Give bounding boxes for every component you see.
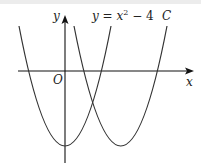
curve1-equation-label: y = x2 − 4	[91, 8, 154, 23]
eq-equals: =	[99, 9, 117, 23]
origin-label: O	[53, 73, 63, 87]
x-axis-label: x	[186, 75, 193, 89]
eq-rest: − 4	[128, 9, 154, 23]
curve-c-label: C	[162, 9, 171, 23]
y-axis-label: y	[52, 9, 60, 23]
svg-text:y = x2 − 4: y = x2 − 4	[91, 8, 154, 23]
parabola-c	[74, 26, 167, 146]
parabola-diagram: y x O C y = x2 − 4	[0, 0, 201, 168]
